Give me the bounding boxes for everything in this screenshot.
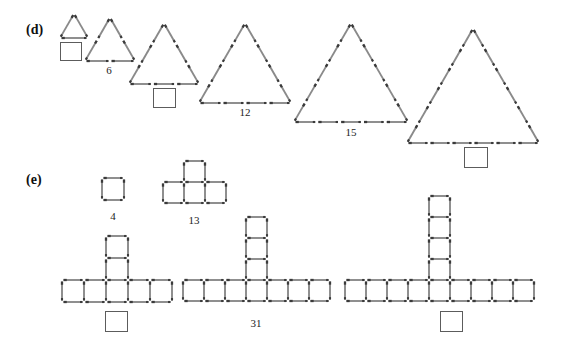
matchstick-left-side xyxy=(61,15,73,36)
matchstick-right-side xyxy=(363,44,373,61)
matchstick-right-side xyxy=(75,15,87,36)
matchstick-left-side xyxy=(463,30,472,46)
matchstick-right-side xyxy=(111,19,122,38)
triangle-figure-2 xyxy=(86,19,134,61)
matchstick-right-side xyxy=(165,25,175,42)
count-label-squares-figure-4: 31 xyxy=(240,317,272,329)
matchstick-right-side xyxy=(280,84,290,101)
triangle-figure-6 xyxy=(408,30,538,143)
answer-box-triangle-figure-3[interactable] xyxy=(153,88,176,108)
triangle-figure-1 xyxy=(61,15,87,38)
count-label-triangle-figure-2: 6 xyxy=(93,64,125,76)
squares-figure-5 xyxy=(345,196,534,301)
matchstick-left-side xyxy=(295,104,305,121)
matchstick-left-side xyxy=(234,25,244,42)
matchstick-right-side xyxy=(123,41,134,60)
matchstick-right-side xyxy=(246,25,256,42)
matchstick-right-side xyxy=(529,125,538,141)
matchstick-left-side xyxy=(329,44,339,61)
count-label-squares-figure-2: 13 xyxy=(178,214,210,226)
worksheet-page: (d)61215(e)41331 xyxy=(0,0,569,352)
matchstick-right-side xyxy=(474,30,483,46)
matchstick-right-side xyxy=(507,87,516,103)
matchstick-right-side xyxy=(257,45,267,62)
matchstick-right-side xyxy=(188,65,198,82)
matchstick-left-side xyxy=(200,84,210,101)
matchstick-figures-layer xyxy=(0,0,569,352)
triangle-figure-4 xyxy=(200,25,290,103)
answer-box-triangle-figure-6[interactable] xyxy=(464,147,488,168)
matchstick-left-side xyxy=(153,25,163,42)
squares-figure-4 xyxy=(183,217,330,301)
squares-figure-3 xyxy=(62,236,172,302)
section-label-d: (d) xyxy=(26,22,43,38)
count-label-triangle-figure-5: 15 xyxy=(335,126,367,138)
triangle-figure-3 xyxy=(130,25,198,84)
matchstick-right-side xyxy=(269,65,279,82)
matchstick-left-side xyxy=(408,125,417,141)
matchstick-right-side xyxy=(397,104,407,121)
matchstick-left-side xyxy=(306,84,316,101)
matchstick-right-side xyxy=(352,25,362,42)
matchstick-right-side xyxy=(496,68,505,84)
squares-figure-1 xyxy=(102,178,124,200)
matchstick-left-side xyxy=(318,64,328,81)
matchstick-right-side xyxy=(485,49,494,65)
matchstick-left-side xyxy=(441,68,450,84)
count-label-squares-figure-1: 4 xyxy=(97,210,129,222)
answer-box-triangle-figure-1[interactable] xyxy=(60,42,82,61)
matchstick-left-side xyxy=(141,45,151,62)
matchstick-left-side xyxy=(130,65,140,82)
matchstick-left-side xyxy=(86,41,97,60)
triangle-figure-5 xyxy=(295,25,407,122)
matchstick-left-side xyxy=(223,45,233,62)
matchstick-right-side xyxy=(518,106,527,122)
matchstick-right-side xyxy=(386,84,396,101)
count-label-triangle-figure-4: 12 xyxy=(229,106,261,118)
section-label-e: (e) xyxy=(26,172,42,188)
matchstick-right-side xyxy=(176,45,186,62)
answer-box-squares-figure-5[interactable] xyxy=(440,311,463,332)
squares-figure-2 xyxy=(163,161,226,203)
answer-box-squares-figure-3[interactable] xyxy=(105,311,128,332)
matchstick-left-side xyxy=(430,87,439,103)
matchstick-left-side xyxy=(419,106,428,122)
matchstick-left-side xyxy=(452,49,461,65)
matchstick-left-side xyxy=(340,25,350,42)
matchstick-left-side xyxy=(98,19,109,38)
matchstick-right-side xyxy=(375,64,385,81)
matchstick-left-side xyxy=(211,65,221,82)
